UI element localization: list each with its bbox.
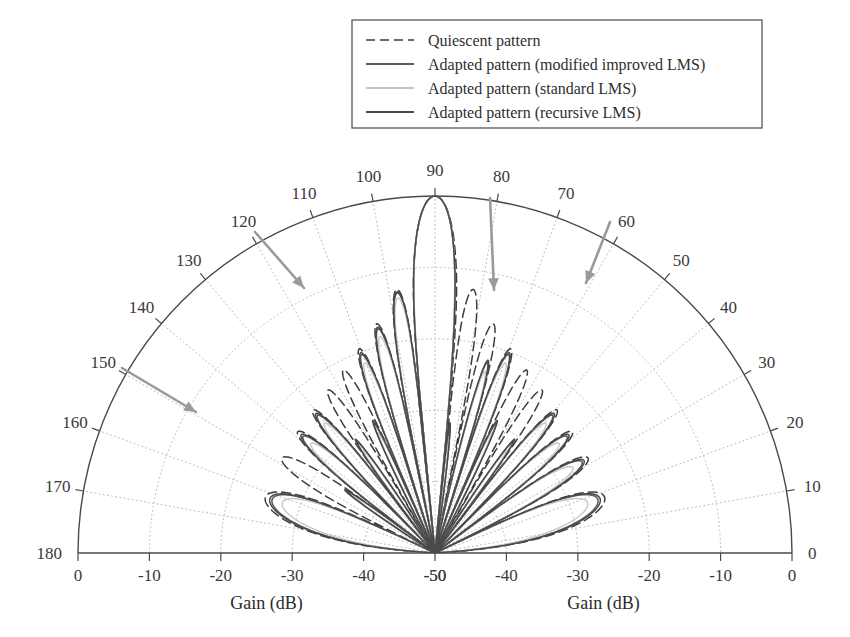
angle-tick-80 (497, 194, 498, 202)
angle-tick-60 (614, 237, 618, 244)
legend: Quiescent patternAdapted pattern (modifi… (352, 20, 762, 128)
angle-label-10: 10 (804, 477, 821, 496)
arrow-null-80 (488, 198, 499, 290)
axis-title-left: Gain (dB) (230, 593, 302, 614)
gain-label-left-2: -20 (209, 566, 232, 585)
grid-spoke-40deg (435, 324, 708, 553)
angle-label-150: 150 (91, 353, 117, 372)
arrow-null-120 (255, 232, 304, 288)
angle-tick-100 (372, 194, 373, 202)
angle-tick-10 (787, 490, 795, 491)
gain-label-right-5: 0 (788, 566, 797, 585)
angle-tick-20 (770, 428, 778, 431)
angle-tick-50 (664, 273, 669, 279)
angle-label-110: 110 (292, 184, 317, 203)
angle-label-0: 0 (808, 544, 817, 563)
angle-label-100: 100 (356, 167, 382, 186)
legend-label-1: Adapted pattern (modified improved LMS) (428, 56, 705, 74)
angle-tick-70 (557, 210, 560, 218)
legend-label-0: Quiescent pattern (428, 32, 540, 50)
legend-label-2: Adapted pattern (standard LMS) (428, 80, 636, 98)
arrow-null-80-head (488, 278, 499, 290)
angle-label-40: 40 (720, 298, 737, 317)
angle-label-50: 50 (673, 251, 690, 270)
arrow-null-150 (122, 368, 196, 412)
gain-label-right-2: -30 (566, 566, 589, 585)
angle-tick-30 (744, 371, 751, 375)
angle-label-70: 70 (557, 184, 574, 203)
angle-tick-140 (155, 318, 161, 323)
polar-grid (78, 196, 792, 553)
angle-label-140: 140 (129, 298, 155, 317)
angle-tick-40 (708, 318, 714, 323)
arrow-null-60-head (585, 270, 595, 283)
gain-label-left-0: 0 (74, 566, 83, 585)
angle-tick-160 (92, 428, 100, 431)
arrow-null-150-shaft (122, 368, 196, 412)
angle-label-90: 90 (427, 161, 444, 180)
angle-label-120: 120 (231, 212, 257, 231)
gain-label-right-3: -20 (638, 566, 661, 585)
axis-title-right: Gain (dB) (567, 593, 639, 614)
angle-tick-170 (76, 490, 84, 491)
angle-tick-130 (200, 273, 205, 279)
gain-label-left-4: -40 (352, 566, 375, 585)
polar-plot-canvas: 0102030405060708090100110120130140150160… (0, 0, 850, 637)
angle-label-180: 180 (37, 544, 63, 563)
angle-label-20: 20 (786, 413, 803, 432)
gain-label-right-4: -10 (709, 566, 732, 585)
gain-label-right-0: -50 (424, 566, 447, 585)
angle-label-80: 80 (493, 167, 510, 186)
angle-label-30: 30 (758, 353, 775, 372)
angle-tick-120 (253, 237, 257, 244)
arrow-null-80-shaft (490, 198, 494, 290)
angle-label-130: 130 (176, 251, 202, 270)
gain-label-left-1: -10 (138, 566, 161, 585)
angle-label-60: 60 (618, 212, 635, 231)
angle-tick-110 (310, 210, 313, 218)
polar-pattern-figure: 0102030405060708090100110120130140150160… (0, 0, 850, 637)
gain-label-left-3: -30 (281, 566, 304, 585)
angle-label-170: 170 (45, 477, 71, 496)
legend-label-3: Adapted pattern (recursive LMS) (428, 104, 641, 122)
grid-spoke-140deg (162, 324, 435, 553)
gain-label-right-1: -40 (495, 566, 518, 585)
angle-label-160: 160 (62, 413, 88, 432)
